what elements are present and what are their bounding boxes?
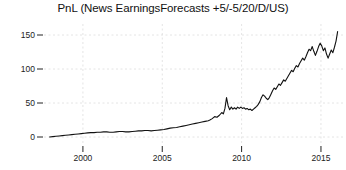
x-tick-label: 2005	[142, 153, 182, 163]
gridlines	[44, 24, 344, 144]
chart-figure: PnL (News EarningsForecasts +5/-5/20/D/U…	[0, 0, 346, 170]
x-tick-label: 2010	[222, 153, 262, 163]
y-tick-label: 50	[26, 98, 35, 108]
x-tick-label: 2000	[63, 153, 103, 163]
axis-tick-marks	[37, 35, 321, 152]
y-tick-label: 100	[21, 64, 35, 74]
y-tick-label: 0	[30, 132, 35, 142]
x-tick-label: 2015	[301, 153, 341, 163]
pnl-line-series	[50, 32, 338, 137]
y-tick-label: 150	[21, 30, 35, 40]
plot-area	[0, 0, 346, 170]
